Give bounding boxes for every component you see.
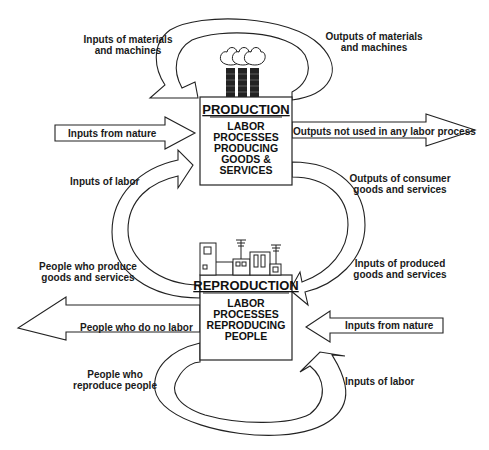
- label-people-no-labor: People who do no labor: [80, 322, 193, 333]
- svg-text:goods and services: goods and services: [41, 272, 135, 283]
- label-inputs-labor-top: Inputs of labor: [70, 176, 140, 187]
- svg-text:goods and services: goods and services: [353, 184, 447, 195]
- label-people-produce: People who produce goods and services: [39, 261, 137, 283]
- svg-text:and machines: and machines: [341, 42, 408, 53]
- svg-text:goods and services: goods and services: [353, 269, 447, 280]
- people-no-labor-arrow: [18, 297, 200, 340]
- svg-text:PEOPLE: PEOPLE: [225, 330, 268, 342]
- label-inputs-produced: Inputs of produced goods and services: [353, 258, 447, 280]
- svg-text:People who produce: People who produce: [39, 261, 137, 272]
- production-reproduction-diagram: PRODUCTION LABOR PROCESSES PRODUCING GOO…: [0, 0, 489, 450]
- label-outputs-materials: Outputs of materials and machines: [325, 31, 423, 53]
- svg-text:Inputs of produced: Inputs of produced: [355, 258, 446, 269]
- svg-text:Outputs of consumer: Outputs of consumer: [349, 173, 450, 184]
- svg-text:and machines: and machines: [95, 45, 162, 56]
- houses-icon: [200, 240, 281, 275]
- reproduction-title: REPRODUCTION: [193, 278, 298, 293]
- label-outputs-consumer: Outputs of consumer goods and services: [349, 173, 450, 195]
- label-people-reproduce: People who reproduce people: [73, 369, 157, 391]
- label-outputs-not-used: Outputs not used in any labor process: [293, 126, 476, 137]
- label-inputs-nature-top: Inputs from nature: [68, 128, 157, 139]
- svg-text:SERVICES: SERVICES: [220, 164, 273, 176]
- svg-text:reproduce people: reproduce people: [73, 380, 157, 391]
- svg-text:Outputs of materials: Outputs of materials: [325, 31, 423, 42]
- label-inputs-labor-bottom: Inputs of labor: [345, 376, 415, 387]
- svg-text:Inputs of materials: Inputs of materials: [84, 34, 173, 45]
- label-inputs-nature-bottom: Inputs from nature: [345, 320, 434, 331]
- production-title: PRODUCTION: [202, 102, 289, 117]
- svg-text:People who: People who: [87, 369, 143, 380]
- factory-icon: [220, 48, 265, 98]
- label-inputs-materials: Inputs of materials and machines: [84, 34, 173, 56]
